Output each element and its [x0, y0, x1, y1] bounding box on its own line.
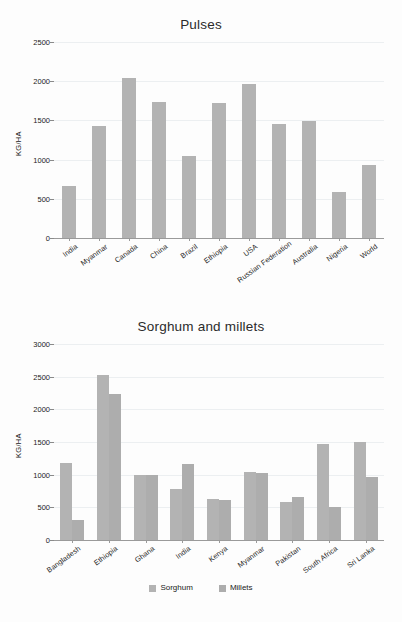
bar	[366, 477, 378, 540]
chart-legend: SorghumMillets	[0, 584, 402, 592]
y-axis-tick-mark	[50, 120, 54, 121]
bar	[332, 192, 346, 238]
bar	[97, 375, 109, 540]
x-axis-tick-mark	[129, 238, 130, 241]
y-axis-tick-mark	[50, 199, 54, 200]
bar	[244, 472, 256, 540]
bar	[354, 442, 366, 540]
plot-area-sorghum-millets: 050010001500200025003000KG/HABangladeshE…	[0, 336, 402, 606]
y-axis-label: KG/HA	[14, 131, 23, 156]
bar	[146, 475, 158, 540]
x-axis-tick-label: India	[25, 242, 79, 285]
bar	[122, 78, 136, 238]
bar	[182, 464, 194, 540]
x-axis-tick-mark	[366, 540, 367, 543]
x-axis-tick-mark	[146, 540, 147, 543]
x-axis-tick-mark	[182, 540, 183, 543]
bar	[170, 489, 182, 540]
legend-label: Sorghum	[160, 584, 192, 592]
bar	[219, 500, 231, 540]
x-axis-tick-mark	[109, 540, 110, 543]
bar	[152, 102, 166, 238]
x-axis-tick-mark	[219, 238, 220, 241]
gridline	[54, 344, 384, 345]
y-axis-tick-mark	[50, 475, 54, 476]
chart-page: Pulses 05001000150020002500KG/HAIndiaMya…	[0, 0, 402, 622]
x-axis-tick-mark	[99, 238, 100, 241]
bar	[134, 475, 146, 540]
y-axis-tick-label: 1500	[24, 116, 50, 125]
bar	[362, 165, 376, 238]
y-axis-tick-label: 2500	[24, 372, 50, 381]
bar	[302, 121, 316, 238]
x-axis-tick-mark	[219, 540, 220, 543]
y-axis-tick-label: 3000	[24, 340, 50, 349]
x-axis-tick-mark	[69, 238, 70, 241]
bar	[256, 473, 268, 540]
y-axis-tick-mark	[50, 42, 54, 43]
legend-item-millets[interactable]: Millets	[219, 584, 253, 592]
y-axis-tick-label: 2000	[24, 405, 50, 414]
bar	[292, 497, 304, 540]
y-axis-tick-label: 500	[24, 503, 50, 512]
chart-pulses: Pulses 05001000150020002500KG/HAIndiaMya…	[0, 10, 402, 310]
y-axis-tick-mark	[50, 344, 54, 345]
x-axis-tick-mark	[309, 238, 310, 241]
bar	[60, 463, 72, 540]
bar	[242, 84, 256, 238]
bar	[329, 507, 341, 540]
x-axis-tick-mark	[72, 540, 73, 543]
chart-title-sorghum-millets: Sorghum and millets	[0, 312, 402, 336]
bar	[212, 103, 226, 238]
y-axis-tick-mark	[50, 81, 54, 82]
x-axis-tick-mark	[279, 238, 280, 241]
y-axis-tick-label: 500	[24, 194, 50, 203]
y-axis-tick-label: 0	[24, 234, 50, 243]
x-axis-tick-mark	[339, 238, 340, 241]
chart-title-pulses: Pulses	[0, 10, 402, 34]
y-axis-tick-mark	[50, 507, 54, 508]
y-axis-tick-label: 1000	[24, 155, 50, 164]
bar	[72, 520, 84, 540]
y-axis-tick-label: 0	[24, 536, 50, 545]
gridline	[54, 42, 384, 43]
legend-swatch-icon	[219, 585, 226, 592]
chart-sorghum-millets: Sorghum and millets 05001000150020002500…	[0, 312, 402, 622]
bar	[207, 499, 219, 540]
bar	[280, 502, 292, 540]
y-axis-tick-label: 1000	[24, 470, 50, 479]
bar	[182, 156, 196, 238]
bar	[317, 444, 329, 540]
y-axis-label: KG/HA	[14, 433, 23, 458]
y-axis-tick-mark	[50, 442, 54, 443]
bar	[272, 124, 286, 238]
bar	[92, 126, 106, 238]
bar	[109, 394, 121, 540]
y-axis-tick-label: 1500	[24, 438, 50, 447]
x-axis-tick-mark	[329, 540, 330, 543]
legend-swatch-icon	[149, 585, 156, 592]
y-axis-tick-label: 2000	[24, 77, 50, 86]
x-axis-tick-mark	[292, 540, 293, 543]
x-axis-tick-mark	[256, 540, 257, 543]
legend-item-sorghum[interactable]: Sorghum	[149, 584, 192, 592]
y-axis-tick-mark	[50, 160, 54, 161]
x-axis-tick-mark	[369, 238, 370, 241]
plot-area-pulses: 05001000150020002500KG/HAIndiaMyanmarCan…	[0, 34, 402, 326]
y-axis-tick-label: 2500	[24, 38, 50, 47]
x-axis-tick-mark	[189, 238, 190, 241]
legend-label: Millets	[230, 584, 253, 592]
gridline	[54, 81, 384, 82]
bar	[62, 186, 76, 238]
x-axis-tick-mark	[159, 238, 160, 241]
y-axis-tick-mark	[50, 377, 54, 378]
y-axis-tick-mark	[50, 409, 54, 410]
x-axis-tick-mark	[249, 238, 250, 241]
